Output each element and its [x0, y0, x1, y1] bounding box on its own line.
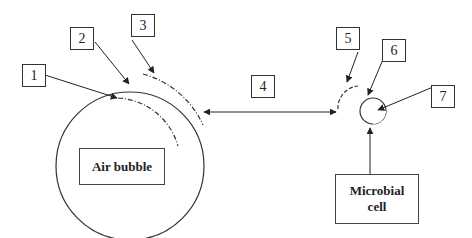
- arrow-2: [95, 42, 129, 84]
- label-4: 4: [251, 75, 275, 98]
- arrow-3: [132, 40, 154, 73]
- arrow-6: [368, 57, 384, 95]
- label-7: 7: [431, 85, 455, 108]
- outer-boundary-arc: [143, 74, 203, 125]
- label-3: 3: [131, 14, 155, 37]
- cell-boundary-arc: [338, 86, 358, 109]
- arrow-7: [378, 87, 433, 110]
- label-5: 5: [336, 27, 360, 50]
- label-2: 2: [70, 27, 94, 50]
- microbial-cell-text-line1: Microbial: [350, 183, 405, 199]
- air-bubble-text: Air bubble: [92, 159, 152, 175]
- arrow-1: [45, 75, 117, 98]
- cell-wedge: [373, 111, 386, 124]
- air-bubble-label: Air bubble: [79, 148, 165, 185]
- inner-boundary-arc: [118, 98, 178, 146]
- microbial-cell-text-line2: cell: [368, 199, 387, 215]
- label-1: 1: [22, 64, 46, 87]
- microbial-cell-box: Microbial cell: [335, 174, 419, 224]
- label-6: 6: [382, 39, 406, 62]
- arrow-5: [347, 52, 358, 82]
